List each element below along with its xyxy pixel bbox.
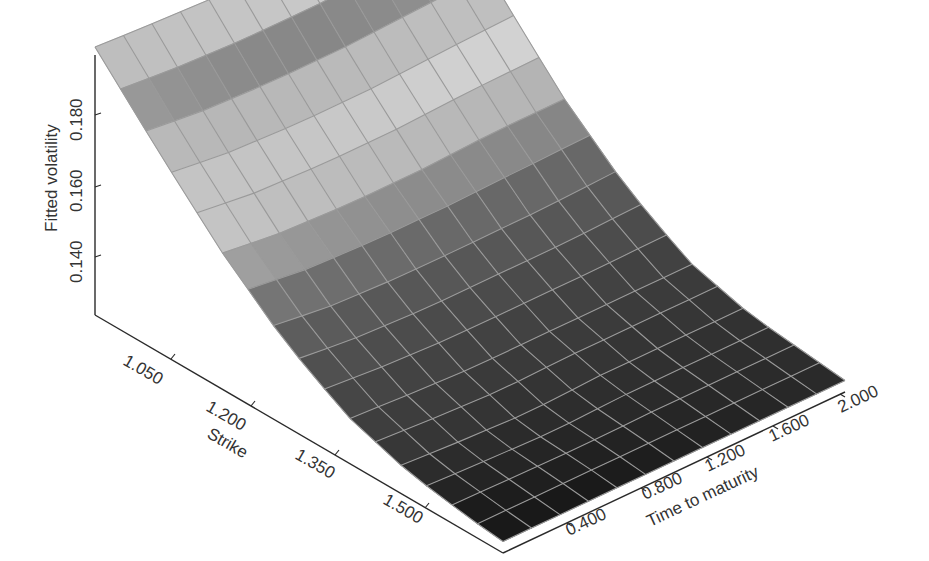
strike-tick-1500 bbox=[425, 503, 429, 508]
strike-tick-1050 bbox=[171, 354, 175, 359]
strike-tick-label-1500: 1.500 bbox=[380, 490, 426, 528]
z-tick-label-0160: 0.160 bbox=[67, 169, 86, 212]
strike-tick-1350 bbox=[335, 450, 339, 455]
z-axis-label: Fitted volatility bbox=[42, 124, 61, 232]
z-tick-0180 bbox=[95, 113, 101, 115]
z-tick-0140 bbox=[95, 255, 101, 257]
strike-tick-label-1350: 1.350 bbox=[292, 445, 338, 483]
z-axis: 0.140 0.160 0.180 Fitted volatility bbox=[42, 55, 101, 315]
time-tick-label-2000: 2.000 bbox=[835, 381, 882, 416]
strike-tick-label-1050: 1.050 bbox=[120, 351, 166, 389]
z-tick-0160 bbox=[95, 185, 101, 187]
strike-axis-label: Strike bbox=[204, 424, 251, 462]
time-tick-label-1600: 1.600 bbox=[766, 410, 813, 445]
z-tick-label-0180: 0.180 bbox=[67, 98, 86, 141]
z-tick-label-0140: 0.140 bbox=[67, 240, 86, 283]
strike-tick-1200 bbox=[251, 401, 255, 406]
volatility-surface-chart: 0.140 0.160 0.180 Fitted volatility 1.05… bbox=[0, 0, 929, 561]
